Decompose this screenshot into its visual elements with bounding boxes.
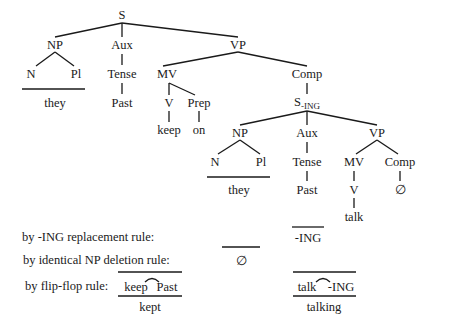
node-s-ing-main: S: [294, 95, 301, 109]
node-embedded-mv: MV: [344, 155, 364, 169]
node-aux: Aux: [111, 38, 133, 52]
flipflop-left-input-past: Past: [157, 280, 178, 294]
node-keep: keep: [157, 123, 181, 137]
branch-sing-vp: [307, 111, 377, 125]
rule-np-deletion-label: by identical NP deletion rule:: [23, 253, 170, 267]
node-embedded-np: NP: [232, 126, 248, 140]
branch-sing-np: [240, 111, 307, 125]
branch-vp-mv: [163, 52, 238, 66]
node-embedded-vp: VP: [369, 126, 385, 140]
branch-s-np: [55, 23, 122, 37]
branch-enp-pl: [240, 140, 260, 154]
node-v: V: [164, 96, 173, 110]
node-embedded-talk: talk: [345, 210, 364, 224]
node-embedded-tense: Tense: [293, 155, 322, 169]
node-tense: Tense: [108, 67, 137, 81]
rule-ing-replacement-result: -ING: [295, 231, 321, 245]
branch-enp-n: [218, 140, 240, 154]
node-comp: Comp: [292, 67, 323, 81]
rule-np-deletion-result: ∅: [236, 254, 247, 268]
node-vp: VP: [230, 38, 246, 52]
flipflop-right-input-ing: -ING: [328, 280, 354, 294]
branch-evp-mv: [356, 140, 377, 154]
rule-ing-replacement-label: by -ING replacement rule:: [22, 230, 154, 244]
node-embedded-v: V: [349, 183, 358, 197]
node-embedded-comp: Comp: [385, 155, 416, 169]
rule-flipflop-label: by flip-flop rule:: [25, 279, 108, 293]
node-np: NP: [47, 38, 63, 52]
node-s-ing-sub: -ING: [301, 101, 320, 111]
branch-mv-prep: [169, 83, 195, 95]
phrase-structure-tree-diagram: S NP Aux VP N Pl they Tense Past MV Comp…: [0, 0, 452, 328]
flipflop-right-output-talking: talking: [307, 300, 342, 314]
branch-s-vp: [122, 23, 238, 37]
node-s-ing: S-ING: [294, 95, 320, 113]
node-embedded-they: they: [228, 183, 250, 197]
node-past: Past: [112, 96, 133, 110]
branch-np-n: [36, 52, 55, 66]
branch-vp-comp: [238, 52, 307, 66]
node-embedded-pl: Pl: [256, 155, 266, 169]
branch-np-pl: [55, 52, 74, 66]
node-prep: Prep: [188, 96, 211, 110]
node-embedded-null: ∅: [395, 183, 406, 197]
node-embedded-aux: Aux: [296, 126, 318, 140]
node-pl: Pl: [71, 67, 81, 81]
node-s: S: [119, 8, 126, 22]
branch-evp-comp: [377, 140, 398, 154]
flipflop-left-input-keep: keep: [124, 280, 148, 294]
node-n: N: [26, 67, 35, 81]
flipflop-left-output-kept: kept: [139, 300, 161, 314]
node-embedded-past: Past: [297, 183, 318, 197]
node-on: on: [193, 123, 206, 137]
node-mv: MV: [157, 67, 177, 81]
flipflop-right-input-talk: talk: [298, 280, 317, 294]
node-embedded-n: N: [210, 155, 219, 169]
node-they: they: [44, 96, 66, 110]
